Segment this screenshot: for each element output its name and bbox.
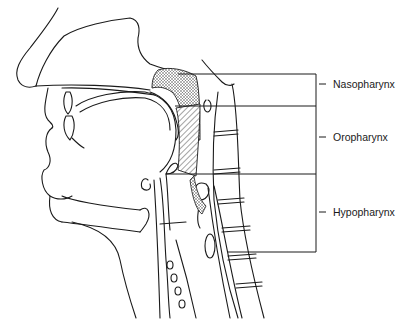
hypopharynx-tissue bbox=[190, 176, 206, 214]
cricoid-cartilage bbox=[205, 234, 215, 258]
occipital-outline bbox=[202, 60, 234, 85]
anatomy-illustration bbox=[0, 0, 406, 323]
posterior-pharyngeal-wall bbox=[176, 104, 200, 176]
neck-front-outline bbox=[72, 222, 136, 318]
trachea-rings bbox=[167, 261, 185, 308]
hyoid-bone bbox=[141, 179, 150, 190]
tongue bbox=[76, 92, 176, 172]
hard-palate bbox=[36, 85, 150, 90]
mandible bbox=[62, 222, 140, 232]
upper-lip bbox=[45, 88, 53, 128]
label-oropharynx: Oropharynx bbox=[333, 131, 388, 143]
label-nasopharynx: Nasopharynx bbox=[333, 78, 395, 90]
pharynx-diagram: Nasopharynx Oropharynx Hypopharynx bbox=[0, 0, 406, 323]
teeth bbox=[64, 92, 72, 114]
label-hypopharynx: Hypopharynx bbox=[333, 206, 395, 218]
epiglottis bbox=[166, 163, 178, 174]
face-profile-outline bbox=[17, 8, 58, 87]
chin-outline bbox=[42, 128, 72, 199]
